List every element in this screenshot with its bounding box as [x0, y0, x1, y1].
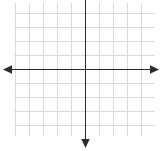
- coordinate-grid-svg: [0, 0, 162, 151]
- coordinate-grid-figure: [0, 0, 162, 151]
- figure-background: [0, 0, 162, 151]
